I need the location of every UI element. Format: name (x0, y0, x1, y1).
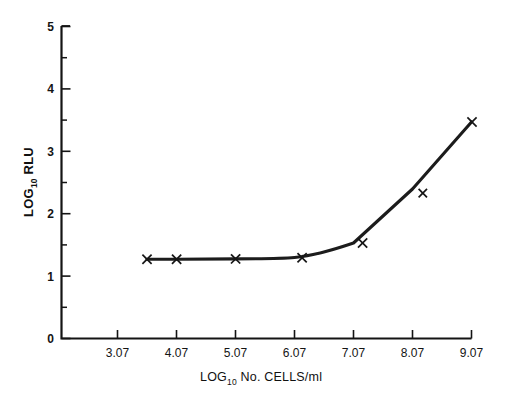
y-axis-title: LOG10 RLU (21, 147, 39, 217)
y-tick-label-2: 2 (47, 207, 54, 221)
y-axis-title-suffix: RLU (21, 147, 36, 178)
data-point-9p07 (467, 117, 476, 126)
y-axis-tick-labels: 0 1 2 3 4 5 (47, 20, 54, 346)
y-axis-ticks (62, 27, 71, 339)
y-axis-title-prefix: LOG (21, 188, 36, 217)
chart-figure: 0 1 2 3 4 5 3.07 4.07 5.07 6.07 7.07 8.0… (0, 0, 512, 400)
y-tick-label-5: 5 (47, 20, 54, 34)
svg-text:LOG10 RLU: LOG10 RLU (21, 147, 39, 217)
y-tick-label-4: 4 (47, 82, 54, 96)
x-axis-title-prefix: LOG (200, 370, 227, 384)
data-point-8p07 (419, 189, 427, 197)
axes-group (62, 26, 472, 339)
x-tick-label-3p07: 3.07 (106, 346, 130, 360)
x-tick-label-4p07: 4.07 (165, 346, 189, 360)
data-point-7p07 (358, 238, 367, 247)
y-tick-label-1: 1 (47, 270, 54, 284)
x-tick-label-5p07: 5.07 (224, 346, 248, 360)
x-tick-label-8p07: 8.07 (401, 346, 425, 360)
y-tick-label-3: 3 (47, 145, 54, 159)
line-chart: 0 1 2 3 4 5 3.07 4.07 5.07 6.07 7.07 8.0… (0, 0, 512, 400)
data-line-path (147, 122, 472, 259)
x-axis-title: LOG10 No. CELLS/ml (200, 370, 322, 387)
y-tick-label-0: 0 (47, 332, 54, 346)
data-series-group (142, 117, 476, 263)
x-tick-label-6p07: 6.07 (283, 346, 307, 360)
x-axis-tick-labels: 3.07 4.07 5.07 6.07 7.07 8.07 9.07 (106, 346, 484, 360)
x-tick-label-9p07: 9.07 (460, 346, 484, 360)
svg-text:LOG10 No. CELLS/ml: LOG10 No. CELLS/ml (200, 370, 322, 387)
x-axis-title-subscript: 10 (227, 377, 237, 387)
axis-lines (62, 26, 472, 339)
x-axis-ticks (118, 330, 472, 339)
data-markers (142, 117, 476, 263)
y-axis-title-subscript: 10 (29, 178, 39, 188)
x-tick-label-7p07: 7.07 (342, 346, 366, 360)
x-axis-title-suffix: No. CELLS/ml (237, 370, 322, 384)
